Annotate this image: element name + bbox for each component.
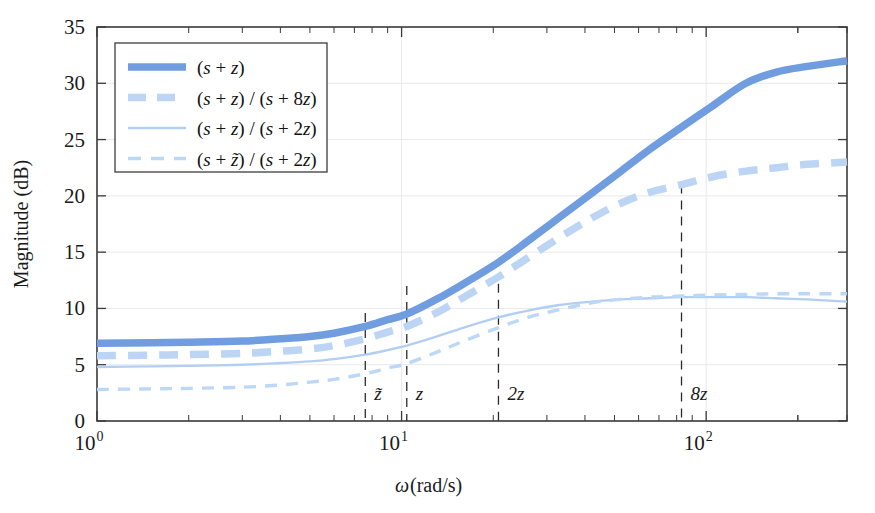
x-tick-label-exponent: 0 xyxy=(97,429,104,444)
x-tick-label: 100 xyxy=(75,429,104,455)
y-axis-title: Magnitude (dB) xyxy=(10,160,33,288)
bode-magnitude-figure: z̃z2z8z 05101520253035 100101102 Magnitu… xyxy=(0,0,875,513)
x-tick-label-exponent: 1 xyxy=(401,429,408,444)
x-tick-label: 102 xyxy=(684,429,713,455)
x-tick-label-mantissa: 10 xyxy=(379,431,400,455)
y-tick-labels-group: 05101520253035 xyxy=(64,15,85,433)
marker-label-z: z xyxy=(415,383,424,404)
marker-labels-group: z̃z2z8z xyxy=(373,383,708,404)
legend-label-s-plus-z-over-s-plus-8z: (s + z) / (s + 8z) xyxy=(197,88,317,110)
y-tick-label: 35 xyxy=(64,15,85,39)
x-axis-title: ω (rad/s) xyxy=(395,474,462,497)
x-tick-label-mantissa: 10 xyxy=(684,431,705,455)
x-tick-label: 101 xyxy=(379,429,408,455)
y-tick-label: 5 xyxy=(75,353,86,377)
x-axis-title-symbol: ω xyxy=(395,474,409,496)
curve-series-1 xyxy=(97,162,847,356)
legend-label-s-plus-z-over-s-plus-2z: (s + z) / (s + 2z) xyxy=(197,118,317,140)
marker-label-2z: 2z xyxy=(507,383,525,404)
legend: (s + z)(s + z) / (s + 8z)(s + z) / (s + … xyxy=(115,43,327,172)
y-tick-label: 20 xyxy=(64,184,85,208)
x-tick-label-exponent: 2 xyxy=(706,429,713,444)
y-tick-label: 25 xyxy=(64,128,85,152)
legend-label-s-plus-ztilde-over-s-plus-2z: (s + z̃) / (s + 2z) xyxy=(197,149,317,171)
x-tick-label-mantissa: 10 xyxy=(75,431,96,455)
marker-label-8z: 8z xyxy=(691,383,709,404)
y-tick-label: 15 xyxy=(64,240,85,264)
x-axis-title-unit: (rad/s) xyxy=(410,474,462,497)
marker-label-~z: z̃ xyxy=(373,383,383,404)
y-tick-label: 30 xyxy=(64,71,85,95)
plot-canvas: z̃z2z8z 05101520253035 100101102 Magnitu… xyxy=(0,0,875,513)
legend-label-s-plus-z: (s + z) xyxy=(197,57,245,79)
x-tick-labels-group: 100101102 xyxy=(75,429,713,455)
curve-series-2 xyxy=(97,297,847,367)
y-tick-label: 0 xyxy=(75,409,86,433)
y-tick-label: 10 xyxy=(64,296,85,320)
